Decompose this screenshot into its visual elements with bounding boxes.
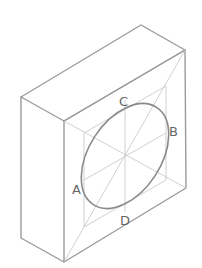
isometric-box-sketch: C B A D <box>0 0 202 268</box>
label-d: D <box>120 213 130 228</box>
top-face <box>21 25 185 121</box>
label-a: A <box>72 182 81 197</box>
label-c: C <box>119 94 128 109</box>
label-b: B <box>169 124 178 139</box>
left-face <box>21 97 64 262</box>
box-edges <box>21 25 186 262</box>
diagram-canvas: C B A D <box>0 0 202 268</box>
diagonal-2 <box>64 50 185 262</box>
construction-lines <box>64 50 186 262</box>
